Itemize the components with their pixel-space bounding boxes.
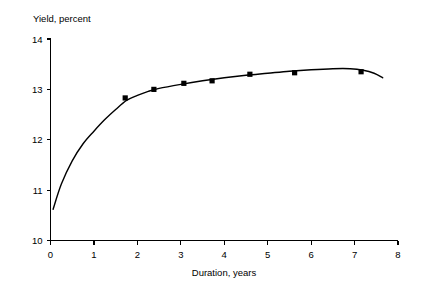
y-axis-ticks: 1011121314 (32, 34, 51, 247)
x-tick-label: 7 (352, 249, 357, 260)
data-point-marker (358, 69, 363, 74)
y-axis-title: Yield, percent (33, 13, 91, 24)
fitted-curve-path (53, 69, 383, 210)
chart-container: Yield, percent 1011121314 012345678 Dura… (0, 0, 427, 290)
data-point-marker (247, 72, 252, 77)
x-tick-label: 2 (135, 249, 140, 260)
data-point-marker (209, 78, 214, 83)
y-tick-label: 11 (33, 185, 43, 196)
yield-curve-chart: Yield, percent 1011121314 012345678 Dura… (0, 0, 427, 290)
data-point-marker (292, 70, 297, 75)
x-axis-title: Duration, years (192, 267, 257, 278)
x-axis-ticks: 012345678 (48, 241, 401, 260)
data-point-markers (123, 69, 364, 100)
x-tick-label: 5 (265, 249, 270, 260)
x-tick-label: 4 (222, 249, 227, 260)
y-tick-label: 10 (32, 235, 43, 246)
x-tick-label: 8 (395, 249, 400, 260)
y-tick-label: 13 (32, 84, 43, 95)
data-point-marker (181, 81, 186, 86)
x-tick-label: 6 (308, 249, 313, 260)
x-tick-label: 3 (178, 249, 183, 260)
y-tick-label: 12 (32, 134, 43, 145)
data-point-marker (151, 87, 156, 92)
data-point-marker (123, 95, 128, 100)
y-tick-label: 14 (32, 34, 43, 45)
x-tick-label: 0 (48, 249, 53, 260)
x-tick-label: 1 (91, 249, 96, 260)
